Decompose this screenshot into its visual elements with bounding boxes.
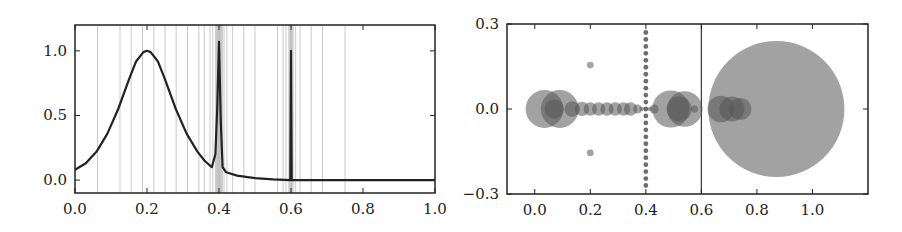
x-tick-label: 0.2 (135, 200, 159, 218)
x-tick-label: 0.0 (63, 200, 87, 218)
y-tick-label: 0.0 (475, 100, 499, 118)
x-tick-label: 0.0 (523, 201, 547, 219)
line-chart: 0.00.20.40.60.81.0 0.00.51.0 (43, 25, 447, 218)
column-dot (643, 183, 648, 188)
y-tick-label: 0.0 (43, 171, 67, 189)
column-dot (643, 162, 648, 167)
column-dot (643, 169, 648, 174)
x-tick-label: 1.0 (801, 201, 825, 219)
column-dot (643, 58, 648, 63)
x-tick-label: 0.2 (578, 201, 602, 219)
y-axis-ticks: 0.00.51.0 (43, 42, 435, 189)
y-tick-label: 0.5 (43, 106, 67, 124)
scatter-circle (639, 107, 643, 111)
scatter-circle (708, 41, 844, 177)
x-tick-label: 0.4 (634, 201, 658, 219)
dotted-column (643, 30, 648, 188)
column-dot (643, 37, 648, 42)
scatter-circle (587, 150, 594, 157)
column-dot (643, 79, 648, 84)
column-dot (643, 44, 648, 49)
scatter-chart: 0.00.20.40.60.81.0 −0.30.00.3 (463, 15, 868, 219)
column-dot (643, 30, 648, 35)
y-tick-label: −0.3 (463, 185, 499, 203)
x-tick-label: 0.6 (689, 201, 713, 219)
scatter-circle (691, 105, 698, 112)
column-dot (643, 134, 648, 139)
column-dot (643, 121, 648, 126)
column-dot (643, 65, 648, 70)
figure: 0.00.20.40.60.81.0 0.00.51.0 0.00.20.40.… (0, 0, 902, 232)
scatter-circle (587, 62, 594, 69)
x-tick-label: 0.6 (279, 200, 303, 218)
y-tick-label: 0.3 (475, 15, 499, 33)
column-dot (643, 141, 648, 146)
column-dot (643, 114, 648, 119)
y-tick-label: 1.0 (43, 42, 67, 60)
column-dot (643, 127, 648, 132)
x-tick-label: 0.8 (745, 201, 769, 219)
column-dot (643, 148, 648, 153)
column-dot (643, 93, 648, 98)
scatter-circle (667, 97, 692, 122)
x-tick-label: 0.4 (207, 200, 231, 218)
scatter-circle (544, 99, 563, 118)
column-dot (643, 176, 648, 181)
column-dot (643, 86, 648, 91)
column-dot (643, 72, 648, 77)
column-dot (643, 51, 648, 56)
x-tick-label: 0.8 (351, 200, 375, 218)
x-tick-label: 1.0 (423, 200, 447, 218)
scatter-circles (526, 41, 845, 177)
column-dot (643, 155, 648, 160)
column-dot (643, 107, 648, 112)
column-dot (643, 100, 648, 105)
